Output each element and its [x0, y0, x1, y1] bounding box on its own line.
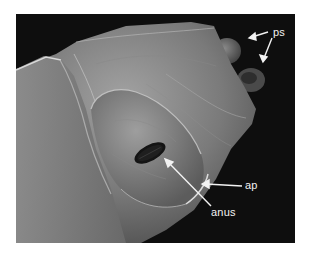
specimen-image: [16, 14, 295, 243]
sem-micrograph: ps ap anus: [16, 14, 295, 243]
label-anus: anus: [211, 206, 236, 218]
label-ap: ap: [245, 179, 258, 191]
label-ps: ps: [273, 26, 285, 38]
